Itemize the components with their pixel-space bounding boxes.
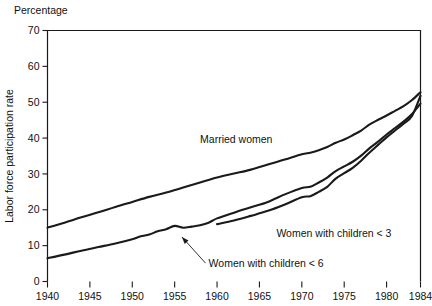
y-tick-label: 70 (28, 24, 40, 36)
series-label-children-under-6: Women with children < 6 (209, 257, 324, 269)
series-label-married-women: Married women (200, 133, 273, 145)
x-tick-label: 1965 (248, 290, 272, 302)
percentage-axis-label: Percentage (14, 4, 68, 16)
x-tick-label: 1984 (409, 290, 432, 302)
x-tick-label: 1980 (375, 290, 399, 302)
x-tick-label: 1970 (290, 290, 314, 302)
y-tick-label: 60 (28, 60, 40, 72)
y-tick-label: 20 (28, 203, 40, 215)
chart-figure: 010203040506070 194019451950195519601965… (0, 0, 432, 306)
x-tick-label: 1960 (205, 290, 229, 302)
y-tick-label: 40 (28, 132, 40, 144)
annotation-leaders (182, 237, 206, 263)
x-axis-ticks: 1940194519501955196019651970197519801984 (36, 282, 432, 302)
line-chart: 010203040506070 194019451950195519601965… (0, 0, 432, 306)
y-axis-title: Labor force participation rate (3, 89, 15, 223)
y-axis-ticks: 010203040506070 (28, 24, 48, 287)
y-tick-label: 10 (28, 239, 40, 251)
x-tick-label: 1955 (163, 290, 187, 302)
x-tick-label: 1975 (333, 290, 357, 302)
x-tick-label: 1950 (121, 290, 145, 302)
x-tick-label: 1940 (36, 290, 60, 302)
y-tick-label: 50 (28, 96, 40, 108)
series-label-children-under-3: Women with children < 3 (276, 227, 391, 239)
y-tick-label: 30 (28, 168, 40, 180)
series-line-0 (48, 92, 421, 228)
series-line-2 (217, 96, 420, 224)
x-tick-label: 1945 (78, 290, 102, 302)
y-tick-label: 0 (34, 275, 40, 287)
